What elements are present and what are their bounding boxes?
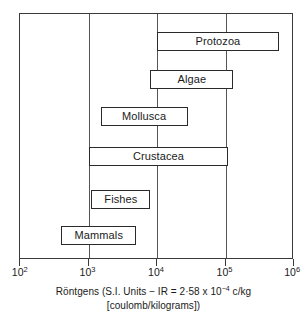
tick-mark-1000: [88, 259, 89, 266]
tick-label-100: 102: [12, 266, 28, 278]
caption-line-1-text: Röntgens (S.I. Units − IR = 2·58 x 10: [56, 286, 222, 297]
x-axis-tick-labels: 102103104105106: [0, 266, 307, 282]
plot-area: Protozoa Algae Mollusca Crustacea Fishes…: [19, 13, 293, 259]
tick-label-1000: 103: [80, 266, 96, 278]
caption-exponent: −4: [222, 285, 230, 292]
tick-label-base: 10: [12, 266, 24, 278]
tick-label-base: 10: [284, 266, 296, 278]
bar-label-crustacea: Crustacea: [133, 151, 184, 162]
bar-fishes: Fishes: [91, 190, 150, 209]
bar-label-mollusca: Mollusca: [122, 111, 166, 122]
radiation-tolerance-chart: Protozoa Algae Mollusca Crustacea Fishes…: [0, 0, 307, 320]
tick-label-exponent: 6: [296, 265, 300, 274]
tick-label-100000: 105: [217, 266, 233, 278]
bar-mollusca: Mollusca: [101, 107, 188, 126]
bar-protozoa: Protozoa: [157, 32, 279, 51]
tick-label-base: 10: [80, 266, 92, 278]
caption-line-2: [coulomb/kilograms]): [0, 299, 307, 313]
tick-label-exponent: 5: [228, 265, 232, 274]
bar-algae: Algae: [150, 70, 233, 89]
bar-crustacea: Crustacea: [89, 147, 229, 166]
bar-label-mammals: Mammals: [75, 230, 123, 241]
caption-line-1: Röntgens (S.I. Units − IR = 2·58 x 10−4 …: [0, 285, 307, 299]
tick-mark-10000: [156, 259, 157, 266]
bar-mammals: Mammals: [61, 226, 136, 245]
tick-label-base: 10: [217, 266, 229, 278]
tick-mark-100: [19, 259, 20, 266]
caption-line-1-tail: c/kg: [230, 286, 251, 297]
gridline-1000: [89, 14, 90, 258]
x-axis-caption: Röntgens (S.I. Units − IR = 2·58 x 10−4 …: [0, 285, 307, 313]
tick-label-10000: 104: [148, 266, 164, 278]
tick-label-exponent: 4: [160, 265, 164, 274]
tick-label-1000000: 106: [284, 266, 300, 278]
tick-mark-1000000: [293, 259, 294, 266]
tick-label-exponent: 2: [24, 265, 28, 274]
tick-label-exponent: 3: [91, 265, 95, 274]
x-axis-tick-marks: [19, 259, 293, 266]
bar-label-protozoa: Protozoa: [195, 36, 240, 47]
tick-label-base: 10: [148, 266, 160, 278]
bar-label-algae: Algae: [178, 74, 207, 85]
bar-label-fishes: Fishes: [104, 194, 137, 205]
tick-mark-100000: [225, 259, 226, 266]
